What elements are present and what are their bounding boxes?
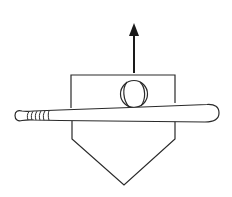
up-arrow-icon: [129, 23, 139, 73]
diagram-svg: [0, 0, 232, 197]
diagram-canvas: Line drawing of a baseball bat lying acr…: [0, 0, 232, 197]
baseball-icon: [121, 81, 148, 108]
baseball-bat-icon: [15, 104, 219, 122]
